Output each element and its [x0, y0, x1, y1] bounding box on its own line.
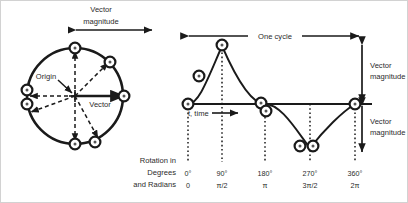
rotation-caption-line2: Degrees: [147, 168, 176, 177]
tick-radians-2pi: 2π: [351, 181, 360, 190]
tick-radians-pi-over-2: π/2: [217, 181, 228, 190]
tick-degrees-360: 360°: [348, 169, 363, 178]
t-time-label: t, time: [188, 109, 209, 118]
one-cycle-label: One cycle: [258, 32, 292, 41]
vector-label: Vector: [89, 100, 111, 109]
tick-degrees-0: 0°: [185, 169, 192, 178]
tick-radians-0: 0: [186, 181, 190, 190]
vector-magnitude-label-top-line1: Vector: [90, 5, 112, 14]
tick-radians-pi: π: [263, 181, 268, 190]
tick-degrees-180: 180°: [258, 169, 273, 178]
tick-degrees-270: 270°: [303, 169, 318, 178]
vector-magnitude-label-top-line2: magnitude: [83, 17, 118, 26]
origin-label: Origin: [36, 72, 56, 81]
vector-magnitude-label-upper-line2: magnitude: [370, 72, 405, 81]
tick-radians-3pi-over-2: 3π/2: [303, 181, 318, 190]
tick-degrees-90: 90°: [217, 169, 228, 178]
vector-magnitude-label-upper-line1: Vector: [370, 61, 392, 70]
vector-magnitude-label-lower-line1: Vector: [370, 117, 392, 126]
figure-root: Vector magnitude Origin Vector Rotation …: [0, 0, 408, 203]
vector-rotation-sine-diagram: Vector magnitude Origin Vector Rotation …: [0, 0, 408, 203]
rotation-caption-line3: and Radians: [133, 180, 176, 189]
vector-magnitude-label-lower-line2: magnitude: [370, 128, 405, 137]
rotation-caption-line1: Rotation in: [140, 156, 176, 165]
